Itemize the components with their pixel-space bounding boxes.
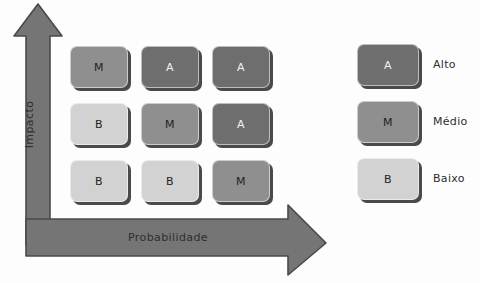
legend-item-médio[interactable]: MMédio <box>357 101 477 158</box>
matrix-cell-r1-c1[interactable]: M <box>141 103 199 145</box>
matrix-cell-label: A <box>237 118 245 131</box>
legend-item-alto[interactable]: AAlto <box>357 44 477 101</box>
matrix-cell-label: A <box>237 61 245 74</box>
legend-swatch-B: B <box>357 158 419 200</box>
matrix-cell-label: A <box>166 61 174 74</box>
legend-label: Baixo <box>433 172 465 185</box>
legend: AAltoMMédioBBaixo <box>357 44 477 215</box>
matrix-cell-label: M <box>236 175 246 188</box>
legend-swatch-M: M <box>357 101 419 143</box>
risk-matrix-diagram: Impacto Probabilidade MAABMABBM AAltoMMé… <box>0 0 480 283</box>
matrix-cell-r1-c0[interactable]: B <box>70 103 128 145</box>
matrix-cell-label: M <box>94 61 104 74</box>
matrix-cell-r0-c0[interactable]: M <box>70 46 128 88</box>
legend-label: Alto <box>433 58 456 71</box>
matrix-cell-label: M <box>165 118 175 131</box>
legend-swatch-code: B <box>384 173 392 186</box>
matrix-cell-r0-c2[interactable]: A <box>212 46 270 88</box>
legend-swatch-A: A <box>357 44 419 86</box>
legend-swatch-code: A <box>384 59 392 72</box>
axis-label-impacto: Impacto <box>23 90 36 160</box>
impacto-arrow-shape <box>14 4 62 245</box>
legend-label: Médio <box>433 115 468 128</box>
matrix-cell-label: B <box>95 118 103 131</box>
legend-swatch-code: M <box>383 116 393 129</box>
matrix-cell-r2-c2[interactable]: M <box>212 160 270 202</box>
matrix-cell-r2-c1[interactable]: B <box>141 160 199 202</box>
matrix-cell-label: B <box>166 175 174 188</box>
matrix-cell-r0-c1[interactable]: A <box>141 46 199 88</box>
matrix-cell-label: B <box>95 175 103 188</box>
axis-label-probabilidade: Probabilidade <box>128 231 208 244</box>
legend-item-baixo[interactable]: BBaixo <box>357 158 477 215</box>
matrix-cell-r2-c0[interactable]: B <box>70 160 128 202</box>
matrix-cell-r1-c2[interactable]: A <box>212 103 270 145</box>
